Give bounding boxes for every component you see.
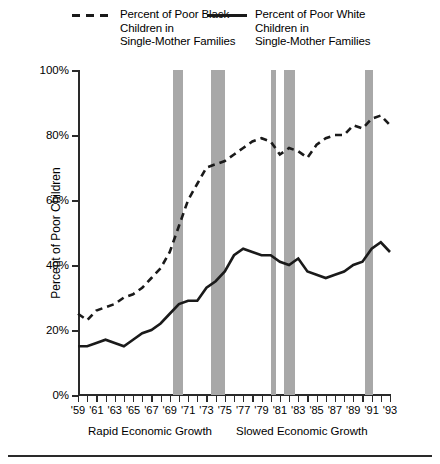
x-tick-label: '63: [108, 404, 122, 416]
x-tick-mark: [252, 396, 253, 402]
x-tick-mark: [298, 396, 299, 402]
series-line-white-children: [78, 242, 390, 346]
x-tick-mark: [179, 396, 180, 402]
y-tick-label: 40%: [46, 259, 69, 271]
x-tick-mark: [381, 396, 382, 402]
x-tick-mark: [161, 396, 162, 402]
x-tick-label: '65: [126, 404, 140, 416]
chart-curves: [78, 70, 390, 395]
x-tick-label: '81: [273, 404, 287, 416]
x-tick-mark: [225, 396, 226, 402]
x-tick-label: '83: [291, 404, 305, 416]
x-tick-mark: [372, 396, 373, 402]
x-tick-mark: [307, 396, 308, 402]
x-tick-mark: [115, 396, 116, 402]
x-tick-mark: [362, 396, 363, 402]
x-tick-label: '67: [144, 404, 158, 416]
x-tick-mark: [78, 396, 79, 402]
series-line-black-children: [78, 116, 390, 321]
x-tick-mark: [96, 396, 97, 402]
x-tick-mark: [326, 396, 327, 402]
x-tick-mark: [280, 396, 281, 402]
annotation-rapid-growth: Rapid Economic Growth: [88, 425, 212, 437]
x-tick-mark: [197, 396, 198, 402]
x-tick-mark: [170, 396, 171, 402]
chart-figure: Percent of Poor Black Children in Single…: [0, 0, 440, 464]
x-tick-mark: [353, 396, 354, 402]
x-tick-mark: [262, 396, 263, 402]
x-tick-mark: [206, 396, 207, 402]
x-tick-label: '73: [199, 404, 213, 416]
legend-label-white-children: Percent of Poor White Children in Single…: [255, 8, 370, 49]
x-tick-label: '87: [328, 404, 342, 416]
x-tick-label: '93: [383, 404, 397, 416]
x-tick-mark: [87, 396, 88, 402]
x-tick-mark: [271, 396, 272, 402]
plot-area: Percent of Poor Children 0%20%40%60%80%1…: [78, 70, 390, 395]
chart-legend: Percent of Poor Black Children in Single…: [0, 0, 440, 60]
y-tick-label: 20%: [46, 324, 69, 336]
x-tick-mark: [216, 396, 217, 402]
y-tick-label: 60%: [46, 194, 69, 206]
x-tick-mark: [151, 396, 152, 402]
x-tick-label: '79: [254, 404, 268, 416]
x-tick-label: '71: [181, 404, 195, 416]
x-tick-mark: [344, 396, 345, 402]
dashed-line-icon: [72, 8, 112, 22]
legend-entry-white-children: Percent of Poor White Children in Single…: [207, 8, 370, 49]
x-tick-mark: [234, 396, 235, 402]
x-tick-mark: [317, 396, 318, 402]
solid-line-icon: [207, 8, 247, 22]
annotation-slowed-growth: Slowed Economic Growth: [236, 425, 368, 437]
x-tick-mark: [289, 396, 290, 402]
x-tick-label: '89: [346, 404, 360, 416]
x-tick-mark: [133, 396, 134, 402]
y-axis-title: Percent of Poor Children: [49, 167, 63, 298]
y-tick-label: 0%: [52, 389, 69, 401]
x-tick-label: '75: [218, 404, 232, 416]
x-axis-ticks: '59'61'63'65'67'69'71'73'75'77'79'81'83'…: [78, 396, 391, 422]
x-tick-mark: [335, 396, 336, 402]
x-tick-label: '77: [236, 404, 250, 416]
x-tick-mark: [390, 396, 391, 402]
x-tick-mark: [188, 396, 189, 402]
x-tick-label: '61: [89, 404, 103, 416]
x-tick-mark: [142, 396, 143, 402]
x-tick-mark: [243, 396, 244, 402]
x-tick-mark: [124, 396, 125, 402]
x-tick-mark: [106, 396, 107, 402]
x-tick-label: '59: [71, 404, 85, 416]
y-tick-label: 80%: [46, 129, 69, 141]
y-tick-label: 100%: [40, 64, 69, 76]
x-tick-label: '85: [309, 404, 323, 416]
footer-divider: [8, 455, 432, 457]
x-tick-label: '69: [163, 404, 177, 416]
x-tick-label: '91: [364, 404, 378, 416]
